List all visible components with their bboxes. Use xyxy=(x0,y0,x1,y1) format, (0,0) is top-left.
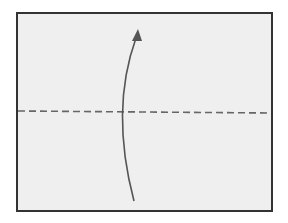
fold-diagram-canvas xyxy=(0,0,288,223)
origami-diagram xyxy=(0,0,288,223)
